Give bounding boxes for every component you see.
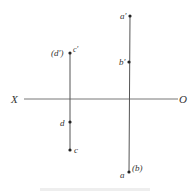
label-c: c — [74, 145, 78, 155]
label-c-prime: c′ — [73, 45, 79, 54]
axis-label-x: X — [10, 93, 19, 105]
label-b: (b) — [132, 163, 143, 173]
label-b-prime: b′ — [119, 57, 127, 67]
label-d-prime: (d′) — [51, 48, 63, 58]
point-a — [127, 170, 130, 173]
point-c — [68, 148, 71, 151]
label-a-prime: a′ — [120, 11, 128, 21]
label-a: a — [120, 170, 125, 180]
point-d — [68, 120, 71, 123]
point-b-prime — [127, 60, 130, 63]
point-c-prime — [68, 51, 71, 54]
projection-diagram: X O c′ (d′) d c a′ b′ (b) a — [0, 0, 193, 193]
label-d: d — [60, 118, 65, 128]
caption-remnant — [40, 188, 150, 191]
projector-line-ab — [129, 16, 130, 172]
point-a-prime — [128, 14, 131, 17]
axis-label-o: O — [179, 93, 187, 105]
